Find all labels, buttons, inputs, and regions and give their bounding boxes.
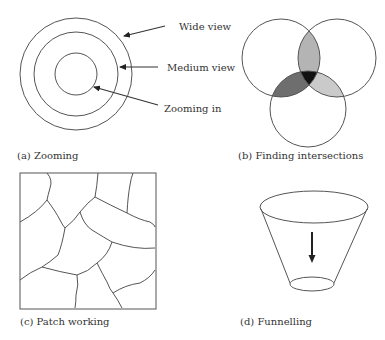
caption-c: (c) Patch working bbox=[20, 316, 110, 327]
panel-intersections: (b) Finding intersections bbox=[230, 0, 385, 161]
patch-boundaries bbox=[20, 173, 155, 308]
panel-funnelling: (d) Funnelling bbox=[240, 191, 368, 327]
wide-view-circle bbox=[20, 18, 132, 130]
diagram-canvas: Wide view Medium view Zooming in (a) Zoo… bbox=[0, 0, 385, 340]
patch-frame bbox=[20, 173, 156, 309]
panel-patch-working: (c) Patch working bbox=[20, 173, 156, 327]
zoom-in-circle bbox=[55, 53, 97, 95]
medium-view-label: Medium view bbox=[167, 62, 236, 73]
medium-view-circle bbox=[34, 32, 118, 116]
down-arrow-icon bbox=[309, 255, 316, 263]
caption-b: (b) Finding intersections bbox=[238, 150, 363, 161]
funnel-bottom-ellipse bbox=[290, 277, 334, 291]
wide-view-arrow-icon bbox=[124, 26, 165, 36]
wide-view-label: Wide view bbox=[179, 21, 232, 32]
caption-d: (d) Funnelling bbox=[240, 316, 313, 327]
panel-zooming: Wide view Medium view Zooming in (a) Zoo… bbox=[17, 18, 236, 161]
zooming-in-label: Zooming in bbox=[164, 103, 222, 114]
funnel-right-side bbox=[334, 209, 367, 283]
zooming-in-arrow-icon bbox=[94, 87, 158, 105]
funnel-top-ellipse bbox=[260, 191, 368, 223]
funnel-left-side bbox=[261, 209, 290, 283]
center-intersection bbox=[230, 0, 385, 160]
caption-a: (a) Zooming bbox=[17, 150, 79, 161]
